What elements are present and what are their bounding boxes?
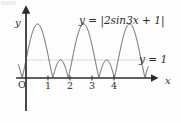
x-tick-label: 3: [89, 80, 95, 91]
origin-label: O: [18, 80, 26, 90]
x-tick-label: 4: [111, 80, 117, 91]
x-tick-label: 1: [45, 80, 51, 91]
x-tick-label: 2: [67, 80, 73, 91]
y-axis-label: y: [15, 18, 21, 28]
function-curve: [18, 24, 148, 78]
x-axis-label: x: [165, 76, 171, 86]
function-graph-figure: y = |2sin3x + 1| y = 1 y x O 1234: [0, 0, 181, 123]
horizontal-line-equation-label: y = 1: [139, 54, 167, 65]
curve-equation-label: y = |2sin3x + 1|: [79, 15, 164, 26]
